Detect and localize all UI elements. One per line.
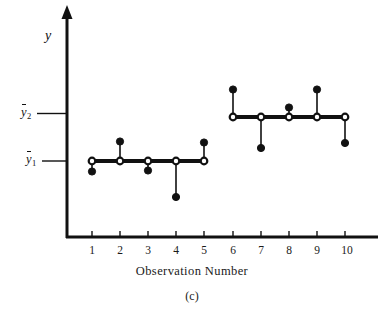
x-tick-label: 1 <box>89 244 95 256</box>
observation-dot <box>285 104 292 111</box>
observation-dot <box>200 139 207 146</box>
figure-container: 1 2 3 4 5 6 7 8 9 10 <box>0 0 384 311</box>
x-tick-label: 9 <box>314 244 320 256</box>
mean-label-upper-subscript: 2 <box>27 111 31 121</box>
mean-marker <box>314 114 321 121</box>
observation-dot <box>88 168 95 175</box>
x-tick-label: 4 <box>173 244 179 256</box>
mean-marker <box>145 158 152 165</box>
mean-marker <box>342 114 349 121</box>
observation-dot <box>313 86 320 93</box>
mean-marker <box>258 114 265 121</box>
x-tick-label: 10 <box>341 244 353 256</box>
x-tick-label: 2 <box>117 244 123 256</box>
observation-dot <box>257 144 264 151</box>
mean-marker <box>286 114 293 121</box>
mean-label-lower-symbol: y <box>26 152 32 167</box>
x-tick-label: 8 <box>286 244 292 256</box>
mean-marker <box>117 158 124 165</box>
mean-marker <box>230 114 237 121</box>
mean-marker <box>89 158 96 165</box>
y-axis-label: y <box>45 28 51 44</box>
observation-dot <box>172 193 179 200</box>
x-tick-label: 6 <box>230 244 236 256</box>
x-tick-label: 5 <box>201 244 207 256</box>
x-axis-title: Observation Number <box>0 264 384 279</box>
figure-caption: (c) <box>0 289 384 304</box>
mean-label-upper: y2 <box>21 105 31 120</box>
mean-label-lower: y1 <box>26 152 36 167</box>
observation-dot <box>341 139 348 146</box>
x-tick-label: 3 <box>145 244 151 256</box>
mean-marker <box>201 158 208 165</box>
mean-label-upper-symbol: y <box>21 105 27 120</box>
observation-dot <box>116 138 123 145</box>
observation-dot <box>144 167 151 174</box>
observation-dot <box>229 86 236 93</box>
observation-dots-group-1 <box>88 138 207 201</box>
mean-label-lower-subscript: 1 <box>32 158 36 168</box>
x-axis-tick-labels: 1 2 3 4 5 6 7 8 9 10 <box>89 244 353 256</box>
x-tick-label: 7 <box>258 244 264 256</box>
mean-marker <box>173 158 180 165</box>
